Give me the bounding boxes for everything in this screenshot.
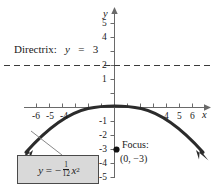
directrix-label-rhs: 3	[93, 43, 99, 55]
x-tick-label-5: 5	[177, 112, 182, 122]
x-tick-label--5: -5	[46, 112, 54, 122]
equation-callout-box: y = − 1 12 x 2	[17, 155, 99, 184]
focus-point-marker	[113, 146, 119, 152]
parabola-figure: x y -6 -5 -4 4 5 6 5 4 2 1 -1 -2 -3 -4 -…	[0, 0, 214, 191]
y-axis-arrow	[111, 7, 117, 14]
directrix-label-prefix: Directrix:	[14, 43, 57, 55]
x-tick-label-4: 4	[164, 112, 169, 122]
equation-fraction: 1 12	[61, 161, 71, 178]
equation-sign: −	[55, 164, 61, 176]
y-tick-label-4: 4	[102, 33, 107, 43]
directrix-label: Directrix: y = 3	[14, 44, 98, 55]
x-axis-label: x	[202, 110, 207, 121]
x-tick-label--6: -6	[32, 112, 40, 122]
x-tick-label-6: 6	[190, 112, 195, 122]
directrix-label-equals: =	[78, 43, 84, 55]
y-tick-label--3: -3	[99, 145, 107, 155]
equation-denominator: 12	[61, 170, 71, 178]
y-tick-label-2: 2	[102, 61, 107, 71]
y-tick-label--1: -1	[99, 117, 107, 127]
y-axis-ticks	[111, 24, 115, 178]
equation-text: y = − 1 12 x 2	[18, 156, 100, 183]
focus-point-label: (0, −3)	[120, 154, 147, 164]
focus-label: Focus:	[122, 140, 149, 150]
y-tick-label-5: 5	[102, 19, 107, 29]
y-tick-label-1: 1	[102, 75, 107, 85]
x-tick-label--4: -4	[60, 112, 68, 122]
y-tick-label--4: -4	[99, 159, 107, 169]
y-tick-label--5: -5	[99, 173, 107, 183]
y-tick-label--2: -2	[99, 131, 107, 141]
directrix-label-lhs: y	[65, 43, 70, 55]
